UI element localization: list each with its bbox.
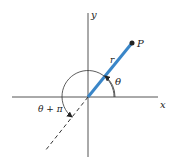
- theta-label: θ: [115, 76, 121, 87]
- point-p: [130, 41, 135, 46]
- radius-line: [88, 43, 132, 97]
- radius-label: r: [110, 55, 115, 65]
- y-axis-label: y: [90, 9, 97, 20]
- point-label: P: [136, 38, 144, 49]
- polar-diagram: y x P r θ θ + π: [0, 0, 170, 167]
- x-axis-label: x: [160, 99, 166, 110]
- theta-plus-pi-label: θ + π: [38, 104, 64, 114]
